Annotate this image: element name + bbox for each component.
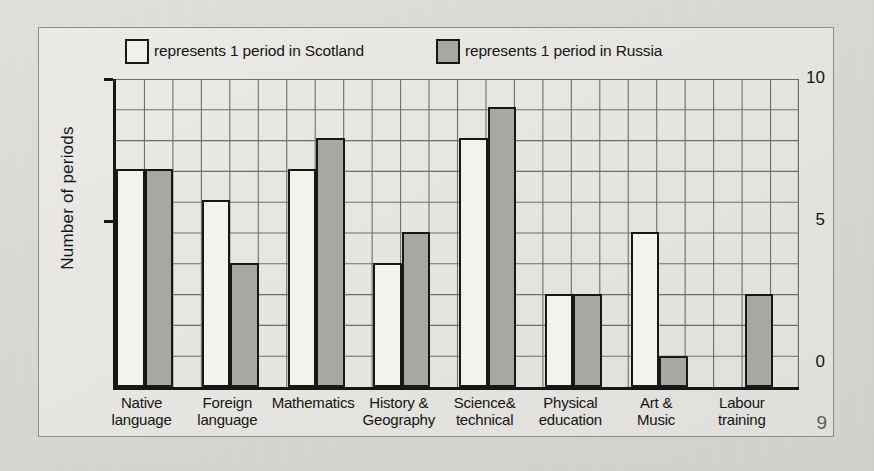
bar-scotland-4 — [459, 138, 488, 387]
legend-label-scotland: represents 1 period in Scotland — [154, 42, 364, 60]
legend-item-scotland: represents 1 period in Scotland — [125, 39, 364, 64]
x-axis-label-7: Labourtraining — [695, 394, 789, 428]
bar-scotland-6 — [631, 232, 660, 388]
bar-scotland-0 — [116, 169, 145, 387]
x-axis-label-5: Physicaleducation — [523, 394, 617, 428]
x-axis-label-7-line-1: training — [695, 411, 789, 428]
bar-russia-7 — [745, 294, 774, 387]
x-axis-label-1-line-1: language — [180, 411, 274, 428]
x-axis-labels: NativelanguageForeignlanguageMathematics… — [113, 394, 799, 438]
x-axis-label-4: Science&technical — [438, 394, 532, 428]
bar-chart-figure: represents 1 period in Scotland represen… — [38, 27, 834, 437]
legend-label-russia: represents 1 period in Russia — [465, 42, 662, 60]
x-axis-label-1-line-0: Foreign — [180, 394, 274, 411]
bar-series-container — [116, 79, 799, 387]
bar-russia-0 — [145, 169, 174, 387]
bar-russia-6 — [659, 356, 688, 387]
x-axis-label-2: Mathematics — [266, 394, 360, 411]
bar-scotland-3 — [373, 263, 402, 387]
x-axis-label-4-line-1: technical — [438, 411, 532, 428]
bar-scotland-1 — [202, 200, 231, 387]
x-axis-label-3-line-0: History & — [352, 394, 446, 411]
y-tick-label-10: 10 — [795, 68, 825, 88]
chart-legend: represents 1 period in Scotland represen… — [125, 34, 745, 68]
legend-item-russia: represents 1 period in Russia — [436, 39, 662, 64]
x-axis-label-0-line-0: Native — [95, 394, 189, 411]
legend-swatch-scotland — [125, 39, 149, 64]
bar-scotland-5 — [545, 294, 574, 387]
y-tick-label-0: 0 — [795, 352, 825, 372]
bar-scotland-2 — [288, 169, 317, 387]
x-axis-label-1: Foreignlanguage — [180, 394, 274, 428]
y-tick-mark-10 — [104, 78, 113, 81]
y-tick-label-5: 5 — [795, 210, 825, 230]
bar-russia-2 — [316, 138, 345, 387]
bar-russia-3 — [402, 232, 431, 388]
x-axis-label-6-line-1: Music — [609, 411, 703, 428]
x-axis-label-0: Nativelanguage — [95, 394, 189, 428]
x-axis-label-4-line-0: Science& — [438, 394, 532, 411]
bar-russia-5 — [573, 294, 602, 387]
x-axis-label-5-line-0: Physical — [523, 394, 617, 411]
plot-area — [113, 79, 799, 390]
x-axis-label-5-line-1: education — [523, 411, 617, 428]
x-axis-label-3-line-1: Geography — [352, 411, 446, 428]
x-axis-label-2-line-0: Mathematics — [266, 394, 360, 411]
x-axis-label-0-line-1: language — [95, 411, 189, 428]
bar-russia-4 — [488, 107, 517, 387]
x-axis-label-7-line-0: Labour — [695, 394, 789, 411]
y-tick-mark-5 — [104, 220, 113, 223]
x-axis-label-3: History &Geography — [352, 394, 446, 428]
x-axis-label-6-line-0: Art & — [609, 394, 703, 411]
x-axis-label-6: Art &Music — [609, 394, 703, 428]
bar-russia-1 — [230, 263, 259, 387]
page-number: 9 — [816, 412, 827, 434]
legend-swatch-russia — [436, 39, 460, 64]
y-axis-title: Number of periods — [58, 73, 78, 323]
